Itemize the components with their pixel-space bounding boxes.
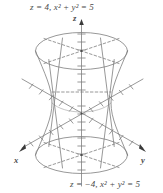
top-equation-z: z = 4, — [30, 2, 51, 12]
hyperboloid-figure: z = 4, x² + y² = 5 z = −4, x² + y² = 5 x… — [0, 0, 163, 193]
bottom-equation-circle: x² + y² = 5 — [100, 179, 140, 189]
z-axis — [78, 19, 85, 186]
x-axis-label: x — [14, 156, 18, 165]
y-axis-label: y — [141, 156, 145, 165]
figure-canvas — [0, 0, 163, 193]
z-axis-arrowhead — [79, 19, 84, 25]
x-axis-arrowhead — [19, 144, 26, 152]
y-axis-arrowhead — [139, 144, 146, 152]
top-equation-label: z = 4, x² + y² = 5 — [30, 3, 94, 12]
bottom-equation-z: z = −4, — [70, 179, 98, 189]
top-equation-circle: x² + y² = 5 — [54, 2, 94, 12]
z-axis-label: z — [73, 14, 76, 23]
bottom-equation-label: z = −4, x² + y² = 5 — [70, 180, 140, 189]
